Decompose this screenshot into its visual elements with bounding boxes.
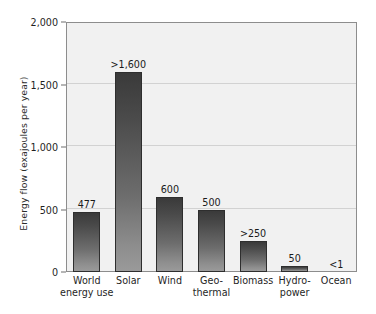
bar-slot: >250 xyxy=(240,22,267,272)
y-tick-label-1500: 1,500 xyxy=(0,79,58,90)
x-axis-labels: Worldenergy useSolarWindGeo-thermalBioma… xyxy=(66,275,357,314)
bar xyxy=(198,210,225,273)
x-category-label-line: energy use xyxy=(60,287,114,299)
bar-slot: 477 xyxy=(73,22,100,272)
bar xyxy=(156,197,183,272)
bar-slot: >1,600 xyxy=(115,22,142,272)
x-category-label: Ocean xyxy=(309,275,363,287)
bar-slot: 50 xyxy=(281,22,308,272)
x-category-label-line: thermal xyxy=(185,287,239,299)
bar-slot: <1 xyxy=(323,22,350,272)
y-tick-label-500: 500 xyxy=(0,204,58,215)
bar xyxy=(240,241,267,272)
y-axis-title: Energy flow (exajoules per year) xyxy=(18,39,29,269)
bar-value-label: 500 xyxy=(184,197,239,208)
bar xyxy=(281,266,308,272)
bar-slot: 600 xyxy=(156,22,183,272)
y-tick-label-1000: 1,000 xyxy=(0,142,58,153)
bar-value-label: >1,600 xyxy=(101,59,156,70)
x-category-label-line: power xyxy=(268,287,322,299)
y-tick-label-0: 0 xyxy=(0,267,58,278)
bar xyxy=(73,212,100,272)
bar-value-label: 477 xyxy=(59,199,114,210)
bar-value-label: <1 xyxy=(309,259,364,270)
bar-value-label: 600 xyxy=(142,184,197,195)
x-category-label-line: Ocean xyxy=(309,275,363,287)
bar-series: 477>1,600600500>25050<1 xyxy=(66,22,357,272)
bar xyxy=(115,72,142,272)
y-tick-label-2000: 2,000 xyxy=(0,17,58,28)
bar-chart: Energy flow (exajoules per year) 05001,0… xyxy=(0,0,376,314)
bar-value-label: >250 xyxy=(226,228,281,239)
bar-slot: 500 xyxy=(198,22,225,272)
